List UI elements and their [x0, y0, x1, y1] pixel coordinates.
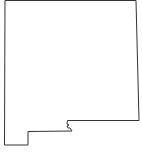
state-outline-map	[0, 0, 142, 154]
new-mexico-outline	[5, 1, 140, 146]
